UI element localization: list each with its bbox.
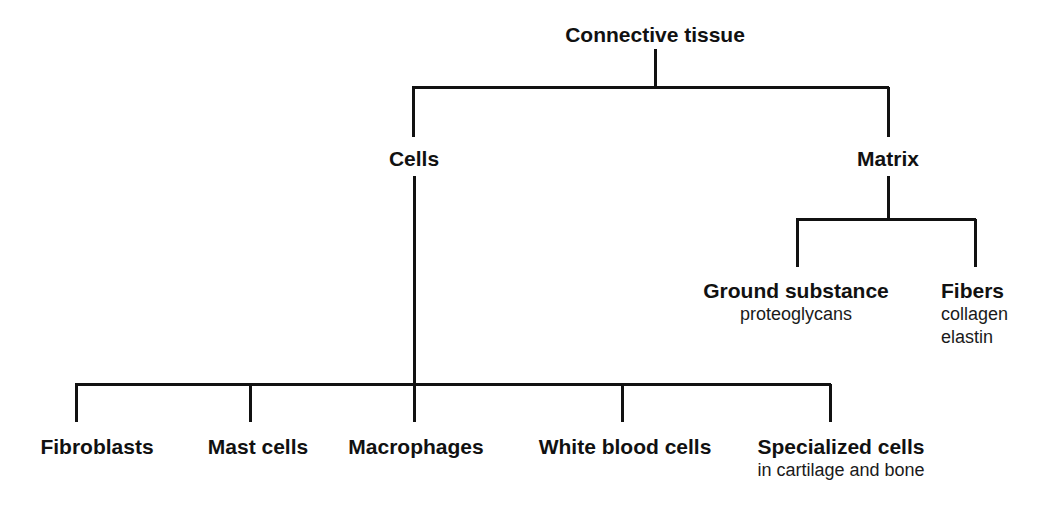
node-white-blood-cells-label: White blood cells [539, 435, 712, 458]
node-fibers: Fibers collagen elastin [941, 278, 1008, 349]
node-connective-tissue-label: Connective tissue [565, 23, 745, 46]
node-white-blood-cells: White blood cells [539, 434, 712, 459]
node-connective-tissue: Connective tissue [565, 22, 745, 47]
node-cells-label: Cells [389, 147, 439, 170]
node-fibroblasts: Fibroblasts [40, 434, 153, 459]
node-ground-substance: Ground substance proteoglycans [703, 278, 889, 326]
node-ground-substance-sublabel-proteoglycans: proteoglycans [703, 303, 889, 326]
node-macrophages: Macrophages [348, 434, 483, 459]
connective-tissue-diagram: Connective tissue Cells Matrix Ground su… [0, 0, 1051, 519]
node-specialized-cells-label: Specialized cells [757, 434, 924, 459]
node-ground-substance-label: Ground substance [703, 278, 889, 303]
node-mast-cells: Mast cells [208, 434, 308, 459]
node-macrophages-label: Macrophages [348, 435, 483, 458]
node-fibroblasts-label: Fibroblasts [40, 435, 153, 458]
node-specialized-cells: Specialized cells in cartilage and bone [757, 434, 924, 482]
node-specialized-cells-sublabel: in cartilage and bone [757, 459, 924, 482]
node-cells: Cells [389, 146, 439, 171]
node-fibers-sublabel-collagen: collagen [941, 303, 1008, 326]
node-matrix: Matrix [857, 146, 919, 171]
node-fibers-label: Fibers [941, 278, 1008, 303]
node-mast-cells-label: Mast cells [208, 435, 308, 458]
node-fibers-sublabel-elastin: elastin [941, 326, 1008, 349]
node-matrix-label: Matrix [857, 147, 919, 170]
